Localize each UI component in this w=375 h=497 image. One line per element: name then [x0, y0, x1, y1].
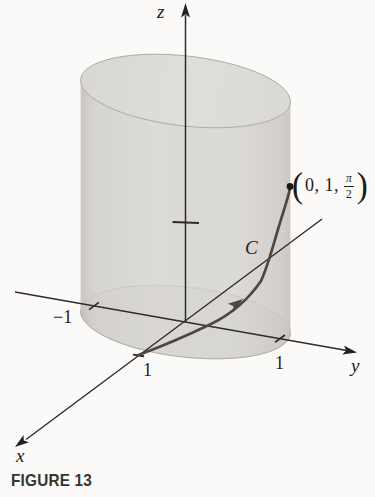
- y-axis-label: y: [351, 356, 359, 375]
- x-axis-label: x: [16, 446, 24, 465]
- fraction-numerator: π: [344, 172, 354, 186]
- y-neg1-label: −1: [53, 308, 72, 326]
- open-paren: (: [292, 170, 303, 202]
- curve-c-label: C: [245, 238, 258, 257]
- point-coordinate-label: ( 0, 1, π 2 ): [292, 164, 368, 208]
- z-axis-label: z: [157, 2, 164, 21]
- fraction-denominator: 2: [344, 187, 354, 200]
- point-coords-text: 0, 1,: [303, 175, 343, 198]
- x-1-label: 1: [143, 361, 152, 379]
- pi-over-2-fraction: π 2: [344, 172, 354, 199]
- z-axis-tick: [173, 222, 200, 223]
- figure-caption: FIGURE 13: [11, 471, 92, 490]
- y-1-label: 1: [275, 354, 284, 372]
- cylinder-helix-drawing: [0, 0, 375, 497]
- close-paren: ): [357, 170, 368, 202]
- figure-13-container: z y x −1 1 1 C ( 0, 1, π 2 ) FIGURE 13: [0, 0, 375, 497]
